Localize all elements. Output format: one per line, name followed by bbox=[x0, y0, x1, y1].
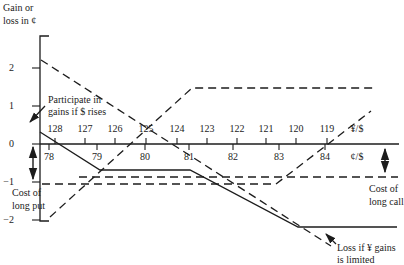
x-top-tick-label: 120 bbox=[289, 123, 304, 134]
y-tick-label: 1 bbox=[9, 100, 14, 111]
x-top-tick-label: 123 bbox=[200, 123, 215, 134]
y-axis-title: loss in ¢ bbox=[3, 15, 36, 26]
x-bottom-tick-label: 78 bbox=[44, 151, 54, 162]
annotation-cost-long-call: long call bbox=[369, 196, 404, 207]
y-tick-label: −2 bbox=[3, 214, 14, 225]
chart-svg: 210−1−2Gain orloss in ¢12812712612512412… bbox=[0, 0, 404, 265]
annotation-loss-limited: Loss if ¥ gains bbox=[337, 242, 396, 253]
series-hedged-position bbox=[40, 132, 397, 227]
x-top-tick-label: 121 bbox=[259, 123, 274, 134]
x-top-tick-label: 128 bbox=[48, 123, 63, 134]
x-bottom-tick-label: 84 bbox=[320, 151, 330, 162]
x-bottom-unit-label: ¢/$ bbox=[351, 151, 364, 162]
x-bottom-tick-label: 79 bbox=[92, 151, 102, 162]
x-bottom-tick-label: 83 bbox=[274, 151, 284, 162]
annotation-arrow-loss-limited bbox=[326, 234, 336, 244]
x-bottom-tick-label: 82 bbox=[228, 151, 238, 162]
x-top-tick-label: 125 bbox=[139, 123, 154, 134]
y-tick-label: 0 bbox=[9, 138, 14, 149]
annotation-arrow-participate bbox=[30, 106, 45, 122]
x-top-tick-label: 119 bbox=[320, 123, 335, 134]
x-top-tick-label: 126 bbox=[108, 123, 123, 134]
annotation-participate: gains if $ rises bbox=[48, 106, 106, 117]
annotation-participate: Participate in bbox=[48, 94, 101, 105]
x-top-tick-label: 122 bbox=[230, 123, 245, 134]
y-tick-label: −1 bbox=[3, 176, 14, 187]
annotation-cost-long-call: Cost of bbox=[369, 183, 399, 194]
figure-canvas: 210−1−2Gain orloss in ¢12812712612512412… bbox=[0, 0, 404, 265]
annotation-loss-limited: is limited bbox=[337, 254, 375, 265]
x-top-unit-label: ¥/$ bbox=[351, 123, 364, 134]
annotation-cost-long-put: Cost of bbox=[12, 187, 42, 198]
x-bottom-tick-label: 81 bbox=[184, 151, 194, 162]
y-axis-title: Gain or bbox=[3, 2, 34, 13]
annotation-cost-long-put: long put bbox=[12, 200, 45, 211]
x-top-tick-label: 127 bbox=[78, 123, 93, 134]
x-top-tick-label: 124 bbox=[170, 123, 185, 134]
y-tick-label: 2 bbox=[9, 62, 14, 73]
series-long-call-payoff-rising bbox=[276, 111, 371, 184]
x-bottom-tick-label: 80 bbox=[140, 151, 150, 162]
